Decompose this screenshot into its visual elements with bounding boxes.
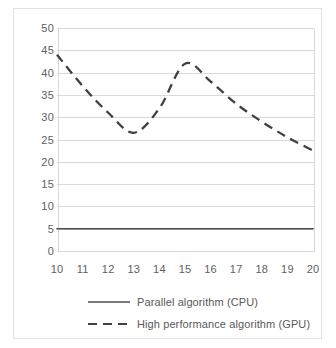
chart-legend: Parallel algorithm (CPU) High performanc… — [14, 291, 323, 335]
legend-item-gpu: High performance algorithm (GPU) — [14, 313, 323, 335]
chart-container: 05101520253035404550 1011121314151617181… — [13, 8, 322, 339]
legend-label-cpu: Parallel algorithm (CPU) — [137, 296, 258, 308]
legend-swatch-solid-icon — [88, 296, 130, 308]
legend-swatch-dashed-icon — [88, 318, 130, 330]
series-line-gpu — [57, 55, 313, 151]
legend-label-gpu: High performance algorithm (GPU) — [137, 318, 310, 330]
legend-item-cpu: Parallel algorithm (CPU) — [14, 291, 323, 313]
